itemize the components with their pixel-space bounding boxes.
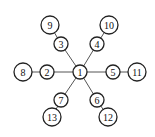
node-label: 13 [47,112,57,123]
node-label: 10 [104,20,114,31]
tree-diagram: 12345678910111213 [0,0,155,137]
node-3: 3 [54,37,68,51]
node-4: 4 [90,37,104,51]
node-1: 1 [73,65,87,79]
nodes-layer: 12345678910111213 [14,16,146,126]
node-label: 9 [48,20,53,31]
node-label: 6 [95,95,100,106]
node-11: 11 [128,63,146,81]
node-7: 7 [54,93,68,107]
node-label: 2 [45,67,50,78]
node-label: 4 [95,39,100,50]
node-label: 7 [59,95,64,106]
node-5: 5 [106,65,120,79]
node-6: 6 [90,93,104,107]
node-label: 11 [132,67,142,78]
node-label: 8 [21,67,26,78]
node-9: 9 [41,16,59,34]
node-label: 5 [111,67,116,78]
node-label: 12 [103,112,113,123]
node-13: 13 [43,108,61,126]
node-2: 2 [40,65,54,79]
node-label: 3 [59,39,64,50]
node-10: 10 [100,16,118,34]
node-label: 1 [78,67,83,78]
node-8: 8 [14,63,32,81]
node-12: 12 [99,108,117,126]
